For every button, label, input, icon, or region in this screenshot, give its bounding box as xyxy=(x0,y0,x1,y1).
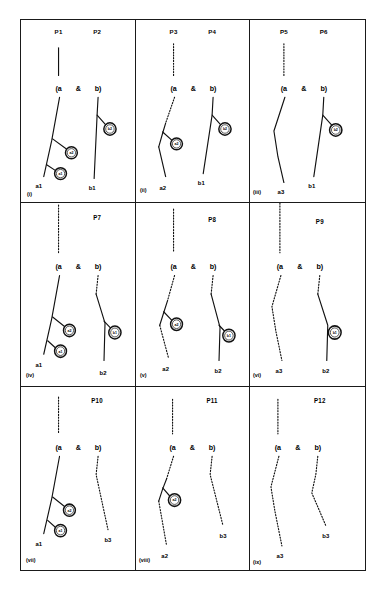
node-marker-a2[interactable]: a2 xyxy=(63,504,75,516)
node-marker-b2[interactable]: b2 xyxy=(330,124,342,136)
operator-label: & xyxy=(298,262,304,271)
right-branch-main xyxy=(318,294,328,360)
right-terminal-label: b2 xyxy=(100,370,108,376)
operator-label: & xyxy=(76,85,81,93)
left-branch-lower xyxy=(158,147,165,177)
node-marker-b2-label: b2 xyxy=(108,127,112,131)
right-terminal-label: b2 xyxy=(214,368,222,374)
panel-iv[interactable]: P7 (a & b) a1 b2 a2 xyxy=(21,203,136,386)
right-branch-main xyxy=(203,97,213,173)
left-branch-upper-dotted xyxy=(167,276,174,301)
left-terminal-label: a1 xyxy=(35,362,42,368)
left-branch-main xyxy=(44,97,60,176)
right-terminal-label: b1 xyxy=(309,183,317,189)
left-branch-main xyxy=(44,276,60,355)
right-head-label: b) xyxy=(208,443,215,452)
node-marker-a2-label: a2 xyxy=(69,151,73,155)
panel-ii[interactable]: P3 P4 (a & b) a2 b1 a2 xyxy=(136,20,251,203)
node-marker-a2[interactable]: a2 xyxy=(65,147,77,159)
left-terminal-label: a3 xyxy=(278,189,285,195)
node-marker-a1-label: a1 xyxy=(59,172,63,176)
node-marker-a2[interactable]: a2 xyxy=(170,318,182,330)
panel-top-label-p12: P12 xyxy=(314,397,326,404)
left-branch-upper-dotted xyxy=(165,97,174,123)
panel-top-label-p11: P11 xyxy=(206,397,217,404)
left-branch-to-marker xyxy=(162,132,172,141)
node-marker-a1[interactable]: a1 xyxy=(55,168,67,180)
left-terminal-label: a2 xyxy=(159,185,166,191)
operator-label: & xyxy=(76,262,82,271)
node-marker-a1[interactable]: a1 xyxy=(55,345,67,357)
operator-label: & xyxy=(190,85,195,93)
panel-i[interactable]: P1 P2 (a & b) a1 b1 a2 xyxy=(21,20,136,203)
operator-label: & xyxy=(296,443,302,452)
left-head-label: (a xyxy=(281,85,288,93)
right-head-label: b) xyxy=(315,443,322,452)
node-marker-a2-label: a2 xyxy=(67,329,71,333)
panel-iii[interactable]: P5 P6 (a & b) a3 b1 b2 (iii) xyxy=(250,20,365,203)
node-marker-b2[interactable]: b2 xyxy=(218,123,230,135)
node-marker-b2[interactable]: b2 xyxy=(104,123,116,135)
right-branch-to-marker xyxy=(97,115,106,125)
right-terminal-label: b3 xyxy=(219,532,227,538)
operator-label: & xyxy=(190,262,196,271)
left-terminal-label: a2 xyxy=(162,366,169,372)
left-terminal-label: a2 xyxy=(161,553,168,559)
panel-top-label-p8: P8 xyxy=(208,216,216,223)
panel-index-label: (ii) xyxy=(140,187,147,193)
operator-label: & xyxy=(302,85,307,93)
panel-v[interactable]: P8 (a & b) a2 b2 a2 xyxy=(136,203,251,386)
panel-top-label-p9: P9 xyxy=(316,218,324,225)
panel-top-label-p10: P10 xyxy=(91,397,103,404)
right-branch-main-dotted xyxy=(210,456,223,525)
panel-top-label-p3: P3 xyxy=(169,28,177,35)
right-terminal-label: b1 xyxy=(197,180,205,186)
node-marker-a2[interactable]: a2 xyxy=(170,138,182,150)
right-terminal-label: b3 xyxy=(105,536,113,542)
panel-index-label: (viii) xyxy=(139,557,150,563)
right-head-label: b) xyxy=(95,85,102,93)
left-head-label: (a xyxy=(169,443,176,452)
left-head-label: (a xyxy=(170,262,177,271)
node-marker-a2[interactable]: a2 xyxy=(168,493,180,506)
left-head-label: (a xyxy=(170,85,176,93)
panel-index-label: (vi) xyxy=(253,372,261,378)
left-head-label: (a xyxy=(55,262,62,271)
node-marker-b1-label: b1 xyxy=(333,331,337,335)
panel-top-label-p7: P7 xyxy=(93,214,101,221)
right-stem-dotted xyxy=(318,276,320,295)
node-marker-b2-label: b2 xyxy=(334,128,338,132)
right-terminal-label: b3 xyxy=(323,532,331,538)
panel-grid: P1 P2 (a & b) a1 b1 a2 xyxy=(21,20,365,570)
node-marker-a1-label: a1 xyxy=(59,529,63,533)
panel-ix[interactable]: P12 (a & b) a3 b3 (ix) xyxy=(250,387,365,570)
left-branch-main-dotted xyxy=(272,276,282,361)
panel-vi[interactable]: P9 (a & b) a3 b2 b1 (vi) xyxy=(250,203,365,386)
left-branch-to-marker-upper xyxy=(53,139,68,150)
panel-viii[interactable]: P11 (a & b) a2 b3 a2 (viii) xyxy=(136,387,251,570)
left-branch-to-marker xyxy=(163,312,172,321)
right-head-label: b) xyxy=(317,262,324,271)
panel-index-label: (iv) xyxy=(26,372,34,378)
left-branch-to-marker-lower xyxy=(47,165,56,171)
left-branch-to-marker-lower xyxy=(48,520,56,527)
right-branch-main xyxy=(96,294,105,360)
node-marker-a2[interactable]: a2 xyxy=(63,325,75,337)
left-terminal-label: a3 xyxy=(277,553,284,559)
node-marker-b1[interactable]: b1 xyxy=(222,330,234,343)
right-branch-main-dotted xyxy=(96,456,108,529)
panel-index-label: (iii) xyxy=(253,189,261,195)
right-head-label: b) xyxy=(209,262,216,271)
node-marker-b1[interactable]: b1 xyxy=(109,326,121,339)
left-branch-main xyxy=(274,97,285,182)
panel-vii[interactable]: P10 (a & b) a1 b3 a2 xyxy=(21,387,136,570)
panel-index-label: (vii) xyxy=(26,557,36,563)
right-stem-dotted xyxy=(211,276,213,295)
right-terminal-label: b2 xyxy=(323,367,331,374)
left-branch-mid xyxy=(158,478,166,500)
right-branch-main-dotted xyxy=(312,456,326,525)
right-branch-to-marker xyxy=(212,115,221,125)
node-marker-b1[interactable]: b1 xyxy=(329,326,342,339)
node-marker-a1[interactable]: a1 xyxy=(55,524,67,536)
left-terminal-label: a1 xyxy=(35,540,42,546)
